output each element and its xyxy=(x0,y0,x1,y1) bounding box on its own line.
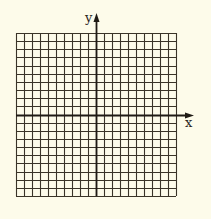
y-axis-arrow-icon xyxy=(94,13,100,22)
x-axis-label: x xyxy=(185,116,192,129)
y-axis-label: y xyxy=(85,11,92,24)
grid xyxy=(0,0,211,219)
coordinate-plane: y x xyxy=(0,0,211,219)
